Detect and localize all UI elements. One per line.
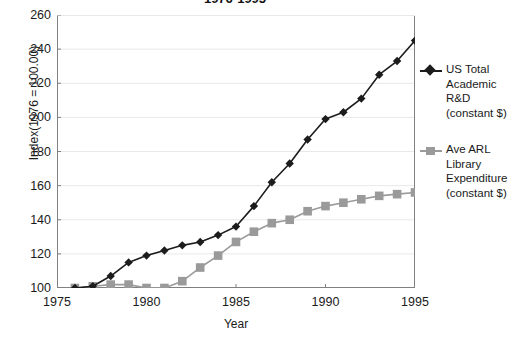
y-tick-label: 160 [30, 179, 51, 193]
y-tick-label: 100 [30, 281, 51, 295]
legend-label-line: Ave ARL [446, 142, 528, 157]
x-tick-label: 1990 [312, 295, 340, 309]
plot-canvas [57, 15, 415, 288]
diamond-marker-icon [420, 66, 442, 76]
legend-label-line: Academic [446, 77, 528, 92]
y-tick-label: 220 [30, 76, 51, 90]
chart-title: 1976-1995 [60, 0, 410, 6]
x-axis-label: Year [57, 317, 415, 331]
y-tick-label: 260 [30, 8, 51, 22]
chart-legend: US Total Academic R&D (constant $) Ave A… [420, 62, 528, 222]
legend-label-line: (constant $) [446, 106, 528, 121]
legend-label-line: (constant $) [446, 186, 528, 201]
square-marker-icon [420, 146, 442, 156]
x-tick-label: 1995 [401, 295, 429, 309]
x-tick-label: 1980 [133, 295, 161, 309]
y-tick-label: 180 [30, 145, 51, 159]
x-tick-label: 1975 [43, 295, 71, 309]
y-tick-label: 140 [30, 213, 51, 227]
legend-label-line: US Total [446, 62, 528, 77]
legend-entry-arl: Ave ARL Library Expenditure (constant $) [420, 142, 528, 200]
legend-entry-rnd: US Total Academic R&D (constant $) [420, 62, 528, 120]
chart-figure: 1976-1995 Index(1976 = 100.00) 100120140… [0, 0, 530, 340]
y-tick-label: 200 [30, 110, 51, 124]
legend-label-line: R&D [446, 91, 528, 106]
legend-label-line: Library [446, 157, 528, 172]
y-tick-label: 120 [30, 247, 51, 261]
x-tick-label: 1985 [222, 295, 250, 309]
y-axis-label: Index(1976 = 100.00) [27, 13, 41, 193]
y-tick-label: 240 [30, 42, 51, 56]
legend-label-line: Expenditure [446, 171, 528, 186]
plot-area: 100120140160180200220240260 197519801985… [57, 15, 415, 288]
